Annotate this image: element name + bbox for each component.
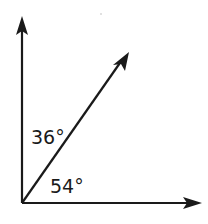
angle-diagram: 36° 54°	[0, 0, 208, 224]
vertical-ray	[16, 16, 28, 203]
horizontal-ray	[22, 197, 202, 209]
angle-label-lower: 54°	[50, 175, 84, 197]
angle-label-upper: 36°	[31, 126, 65, 148]
speck	[100, 13, 102, 15]
